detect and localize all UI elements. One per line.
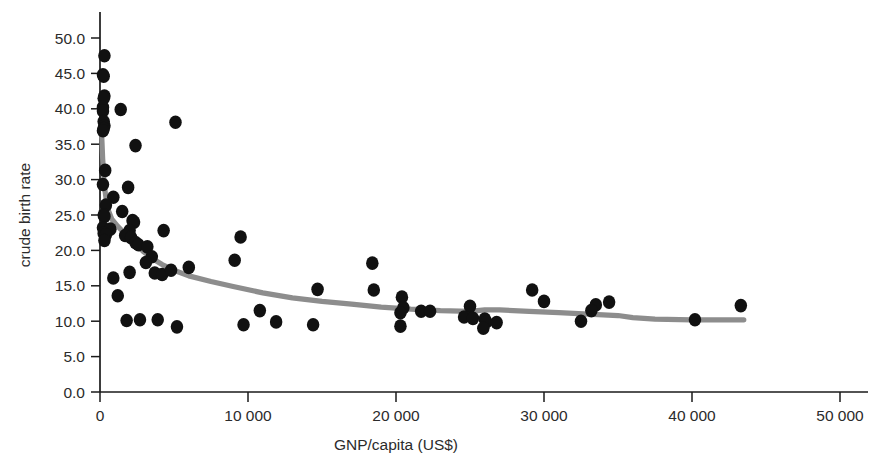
- data-point: [368, 283, 381, 297]
- data-point: [97, 178, 110, 192]
- data-point: [183, 261, 196, 275]
- data-point: [120, 314, 133, 328]
- y-tick-label: 0.0: [63, 384, 85, 401]
- data-point: [394, 319, 407, 333]
- data-point: [254, 304, 267, 318]
- data-point: [585, 304, 598, 318]
- y-tick-label: 15.0: [55, 277, 86, 294]
- x-axis-title: GNP/capita (US$): [334, 436, 458, 453]
- x-tick-label: 0: [96, 407, 105, 424]
- data-point: [171, 320, 184, 334]
- data-point: [114, 103, 127, 117]
- data-point: [97, 124, 110, 138]
- chart-figure: 0.05.010.015.020.025.030.035.040.045.050…: [0, 0, 875, 462]
- y-tick-label: 40.0: [55, 100, 86, 117]
- data-point: [134, 313, 147, 327]
- y-tick-label: 35.0: [55, 136, 86, 153]
- x-tick-label: 50 000: [816, 407, 864, 424]
- data-point: [228, 254, 241, 268]
- scatter-plot: 0.05.010.015.020.025.030.035.040.045.050…: [0, 0, 875, 462]
- x-tick-label: 10 000: [224, 407, 272, 424]
- data-point: [165, 263, 178, 277]
- data-point: [735, 299, 748, 313]
- data-point: [575, 314, 588, 328]
- data-point: [394, 306, 407, 320]
- data-point: [689, 313, 702, 327]
- data-point: [122, 181, 135, 195]
- data-point: [307, 318, 320, 332]
- y-tick-label: 25.0: [55, 207, 86, 224]
- data-point: [467, 312, 480, 326]
- data-point: [98, 49, 111, 63]
- data-point: [270, 315, 283, 329]
- data-point: [98, 234, 111, 248]
- data-point: [490, 316, 503, 330]
- trend-line-layer: [102, 137, 744, 320]
- x-tick-label: 40 000: [668, 407, 716, 424]
- y-tick-label: 45.0: [55, 65, 86, 82]
- y-tick-label: 30.0: [55, 171, 86, 188]
- data-point: [151, 313, 164, 327]
- data-point: [129, 139, 142, 153]
- data-point: [234, 230, 247, 244]
- data-point: [123, 266, 136, 280]
- data-point: [157, 224, 170, 238]
- data-point: [169, 115, 182, 129]
- y-tick-label: 20.0: [55, 242, 86, 259]
- y-tick-label: 5.0: [63, 348, 85, 365]
- data-point: [107, 271, 120, 285]
- data-point: [538, 295, 551, 309]
- data-point: [366, 256, 379, 270]
- y-tick-label: 10.0: [55, 313, 86, 330]
- data-point: [112, 289, 125, 303]
- y-axis-title: crude birth rate: [16, 163, 33, 267]
- data-point: [99, 164, 112, 178]
- data-point: [477, 321, 490, 335]
- x-tick-label: 20 000: [372, 407, 420, 424]
- data-points-layer: [97, 49, 747, 335]
- data-point: [140, 256, 153, 270]
- axes: [91, 12, 868, 402]
- data-point: [603, 295, 616, 309]
- trend-line: [102, 137, 744, 320]
- data-point: [116, 205, 129, 219]
- data-point: [526, 283, 539, 297]
- data-point: [237, 318, 250, 332]
- x-tick-label: 30 000: [520, 407, 568, 424]
- data-point: [97, 69, 110, 83]
- data-point: [311, 283, 324, 297]
- y-tick-label: 50.0: [55, 30, 86, 47]
- data-point: [424, 304, 437, 318]
